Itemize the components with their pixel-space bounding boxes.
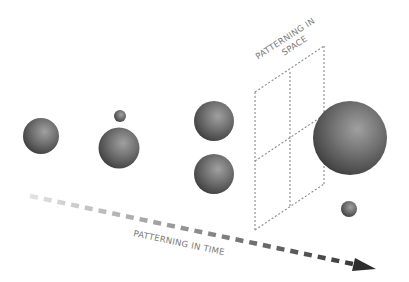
sphere-2 — [99, 128, 140, 169]
sphere-small — [341, 201, 357, 217]
sphere-1 — [23, 118, 59, 154]
sphere-3-bottom — [194, 154, 234, 194]
sphere-tiny — [114, 110, 126, 122]
sphere-3-top — [194, 101, 234, 141]
sphere-large — [313, 101, 387, 175]
time-arrow — [30, 196, 376, 271]
spheres — [23, 101, 387, 217]
grid-bottom-edge — [255, 184, 324, 230]
patterning-diagram: PATTERNING IN SPACE PATTERNING IN TIME — [0, 0, 409, 282]
time-arrow-shaft — [30, 196, 360, 266]
label-patterning-in-space: PATTERNING IN SPACE — [254, 16, 323, 71]
arrow-head-icon — [352, 258, 376, 271]
